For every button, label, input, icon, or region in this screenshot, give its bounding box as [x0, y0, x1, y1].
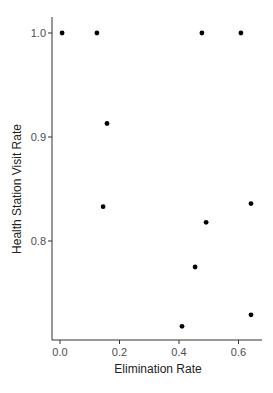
y-tick-label: 0.9	[31, 131, 46, 143]
x-axis-ticks: 0.00.20.40.6	[52, 340, 246, 358]
data-point	[60, 31, 65, 36]
x-tick-label: 0.2	[112, 346, 127, 358]
y-tick-label: 0.8	[31, 235, 46, 247]
data-points	[60, 31, 254, 329]
data-point	[193, 265, 198, 270]
data-point	[180, 324, 185, 329]
data-point	[204, 220, 209, 225]
data-point	[249, 201, 254, 206]
x-tick-label: 0.6	[231, 346, 246, 358]
data-point	[200, 31, 205, 36]
scatter-chart: 0.80.91.0 0.00.20.40.6 Elimination Rate …	[0, 0, 273, 393]
data-point	[105, 121, 110, 126]
y-tick-label: 1.0	[31, 27, 46, 39]
data-point	[95, 31, 100, 36]
x-axis-title: Elimination Rate	[114, 362, 202, 376]
x-tick-label: 0.0	[52, 346, 67, 358]
y-axis-ticks: 0.80.91.0	[31, 27, 52, 247]
y-axis-title: Health Station Visit Rate	[10, 124, 24, 254]
data-point	[101, 204, 106, 209]
data-point	[249, 312, 254, 317]
data-point	[239, 31, 244, 36]
x-tick-label: 0.4	[171, 346, 186, 358]
